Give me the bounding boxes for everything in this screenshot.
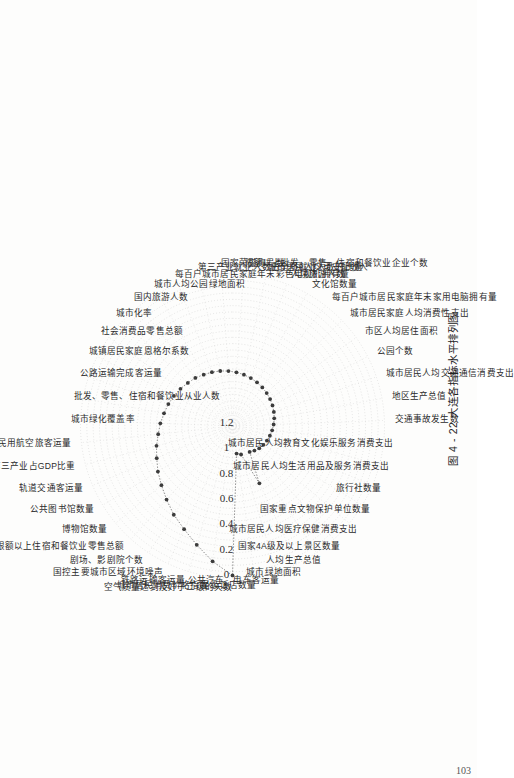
radar-axis-label: 人均生产总值 xyxy=(266,557,321,566)
radar-axis-label: 轨道交通客运量 xyxy=(18,485,82,494)
radar-axis-label: 铁路运输客运量 xyxy=(121,577,185,586)
page-number: 103 xyxy=(456,765,471,776)
radar-axis-label: 公园个数 xyxy=(376,347,413,356)
radar-axis-label: 博物馆数量 xyxy=(61,525,107,534)
radar-axis-label: 旅行社数量 xyxy=(335,485,381,494)
radar-axis-label: 城市居民人均生活用品及服务消费支出 xyxy=(232,462,388,471)
radar-axis-label: 公共图书馆数量 xyxy=(29,506,93,515)
radar-axis-label: 剧场、影剧院个数 xyxy=(69,557,143,566)
radar-axis-label: 城镇居民家庭恩格尔系数 xyxy=(88,347,189,356)
radar-axis-label: 城市居民人均教育文化娱乐服务消费支出 xyxy=(227,439,393,448)
radar-axis-label: 社会消费品零售总额 xyxy=(100,327,183,336)
radial-tick-label: 0.8 xyxy=(219,467,233,479)
radar-axis-label: 国家重点文物保护单位数量 xyxy=(260,506,370,515)
radial-tick-label: 0.2 xyxy=(219,543,233,555)
radar-axis-label: 国控主要城市区域环境噪声 xyxy=(53,568,163,577)
radar-axis-label: 民用航空旅客运量 xyxy=(0,439,71,448)
radar-axis-label: 市区人均居住面积 xyxy=(364,327,438,336)
radar-axis-label: 人境旅游人数 xyxy=(290,270,345,279)
radar-axis-label: 文化馆数量 xyxy=(311,280,357,289)
radar-axis-label: 城市居民人均医疗保健消费支出 xyxy=(228,525,357,534)
radar-axis-label: 地区生产总值 xyxy=(391,392,446,401)
radar-axis-label: 批发、零售、住宿和餐饮业从业人数 xyxy=(73,392,220,401)
radar-axis-label: 每百户城市居民家庭年末家用电脑拥有量 xyxy=(331,293,497,302)
radar-axis-label: 国内旅游人数 xyxy=(133,293,188,302)
radar-axis-label: 星级饭店数量 xyxy=(200,582,255,591)
radial-tick-label: 1.2 xyxy=(219,416,233,428)
radar-axis-label: 城市绿化覆盖率 xyxy=(70,416,134,425)
radial-tick-label: 0.6 xyxy=(219,492,233,504)
radar-axis-label: 第三产业占GDP比重 xyxy=(0,462,75,471)
radar-axis-label: 限额以上住宿和餐饮业零售总额 xyxy=(0,542,124,551)
radar-axis-label: 城市化率 xyxy=(115,309,152,318)
radar-axis-label: 国家4A级及以上景区数量 xyxy=(237,542,340,551)
figure-caption: 图 4 - 22 大连各指标水平排列图 xyxy=(444,0,459,778)
radar-axis-label: 公路运输完成客运量 xyxy=(79,369,162,378)
radar-axis-label: 城市人均公园绿地面积 xyxy=(153,280,245,289)
